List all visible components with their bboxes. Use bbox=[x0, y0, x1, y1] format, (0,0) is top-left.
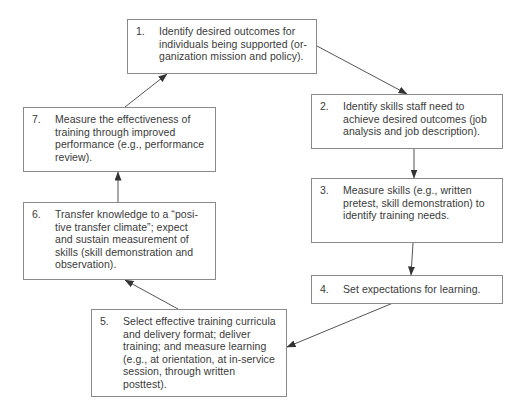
step-number: 2. bbox=[320, 100, 343, 144]
step-number: 6. bbox=[32, 208, 55, 275]
arrow-3-to-4 bbox=[411, 243, 413, 275]
step-text: Measure the effectiveness of training th… bbox=[55, 113, 207, 167]
step-number: 4. bbox=[320, 283, 343, 299]
step-3-box: 3. Measure skills (e.g., written pretest… bbox=[311, 178, 503, 243]
step-7-box: 7. Measure the effectiveness of training… bbox=[23, 107, 216, 172]
step-number: 5. bbox=[100, 315, 123, 392]
arrow-7-to-1 bbox=[125, 74, 167, 107]
step-1-box: 1. Identify desired outcomes for individ… bbox=[127, 19, 317, 74]
step-6-box: 6. Transfer knowledge to a “posi- tive t… bbox=[23, 202, 216, 280]
arrow-1-to-2 bbox=[317, 46, 407, 94]
step-text: Identify desired outcomes for individual… bbox=[159, 25, 308, 69]
step-number: 7. bbox=[32, 113, 55, 167]
step-4-box: 4. Set expectations for learning. bbox=[311, 275, 503, 304]
step-text: Transfer knowledge to a “posi- tive tran… bbox=[55, 208, 207, 275]
step-text: Select effective training curricula and … bbox=[123, 315, 278, 392]
step-5-box: 5. Select effective training curricula a… bbox=[91, 309, 287, 397]
arrow-4-to-5 bbox=[287, 303, 393, 347]
step-number: 1. bbox=[136, 25, 159, 69]
step-text: Measure skills (e.g., written pretest, s… bbox=[343, 184, 494, 238]
step-number: 3. bbox=[320, 184, 343, 238]
step-text: Identify skills staff need to achieve de… bbox=[343, 100, 494, 144]
step-text: Set expectations for learning. bbox=[343, 283, 494, 299]
arrow-5-to-6 bbox=[125, 280, 178, 309]
step-2-box: 2. Identify skills staff need to achieve… bbox=[311, 94, 503, 149]
